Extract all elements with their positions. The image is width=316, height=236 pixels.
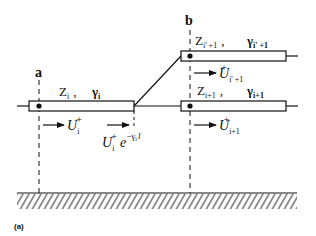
node-b-label: b — [185, 13, 193, 28]
svg-text:Zi,: Zi, — [59, 84, 76, 101]
line-i-plus-1 — [181, 101, 298, 111]
lower-transmitted-wave-label: Ui+1+ — [219, 114, 240, 136]
node-b-lower-dot — [187, 103, 192, 108]
line-i-prime-plus-1-parameters: Zi' +1, γi' +1 — [195, 33, 268, 50]
svg-text:γi+1: γi+1 — [246, 83, 264, 100]
line-i — [17, 101, 134, 111]
line-i-prime-plus-1 — [181, 51, 298, 61]
transmission-line-diagram: a b Zi, γi Zi' +1, γi' +1 Zi+1, γi+1 Ui+… — [0, 0, 316, 236]
attenuated-wave-label: Ui+e−γil — [102, 131, 141, 153]
svg-text:γi' +1: γi' +1 — [246, 33, 268, 50]
figure-label: (a) — [14, 222, 24, 231]
line-i-plus-1-parameters: Zi+1, γi+1 — [197, 83, 264, 100]
svg-text:Zi+1,: Zi+1, — [197, 83, 223, 100]
line-i-parameters: Zi, γi — [59, 84, 101, 101]
svg-text:Zi' +1,: Zi' +1, — [195, 33, 224, 50]
branch-wire-upper — [134, 56, 181, 106]
incident-wave-label: Ui+ — [67, 114, 82, 136]
node-a-label: a — [35, 65, 42, 80]
node-b-upper-dot — [187, 53, 192, 58]
upper-transmitted-wave-label: Ui' +1+ — [219, 62, 243, 84]
ground-plane — [17, 193, 297, 209]
svg-text:γi: γi — [91, 84, 101, 101]
node-a-dot — [36, 103, 41, 108]
